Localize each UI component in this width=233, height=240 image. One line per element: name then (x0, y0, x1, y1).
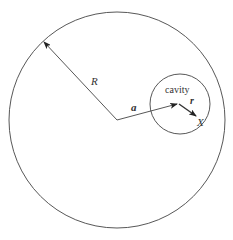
vector-a-arrow (117, 104, 177, 120)
label-r: r (190, 95, 194, 106)
label-cavity: cavity (165, 84, 189, 95)
label-X: X (196, 116, 205, 128)
radius-R-arrow (44, 42, 117, 120)
cavity-diagram: R a cavity r X (0, 0, 233, 240)
label-a: a (131, 101, 137, 113)
label-R: R (90, 75, 98, 87)
